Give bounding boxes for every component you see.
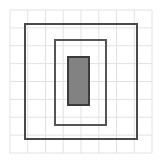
inner-filled-rectangle <box>68 57 89 105</box>
diagram-canvas <box>0 0 162 163</box>
nested-rectangles-diagram <box>0 0 162 163</box>
